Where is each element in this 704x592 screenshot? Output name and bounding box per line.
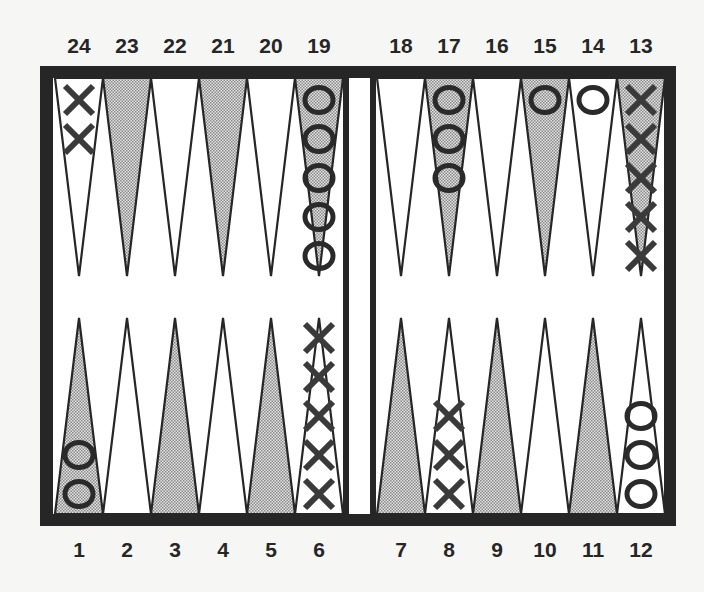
point-label-5: 5 <box>265 538 277 561</box>
point-label-23: 23 <box>115 34 138 57</box>
point-label-21: 21 <box>211 34 235 57</box>
point-label-16: 16 <box>485 34 508 57</box>
point-label-12: 12 <box>629 538 652 561</box>
left-field <box>53 78 343 514</box>
point-label-18: 18 <box>389 34 413 57</box>
bar-edge-right <box>370 78 376 514</box>
point-label-15: 15 <box>533 34 557 57</box>
point-label-8: 8 <box>443 538 455 561</box>
right-field <box>376 78 664 514</box>
point-label-10: 10 <box>533 538 556 561</box>
backgammon-board: 242322212019181716151413123456789101112 <box>0 0 704 592</box>
point-label-22: 22 <box>163 34 186 57</box>
board-canvas: 242322212019181716151413123456789101112 <box>0 0 704 592</box>
point-label-4: 4 <box>217 538 229 561</box>
bar-edge-left <box>343 78 349 514</box>
point-label-2: 2 <box>121 538 133 561</box>
point-label-11: 11 <box>582 538 605 561</box>
point-label-9: 9 <box>491 538 503 561</box>
point-label-17: 17 <box>437 34 460 57</box>
point-label-7: 7 <box>395 538 407 561</box>
point-label-20: 20 <box>259 34 282 57</box>
point-label-3: 3 <box>169 538 181 561</box>
point-label-19: 19 <box>307 34 330 57</box>
point-label-6: 6 <box>313 538 325 561</box>
point-label-1: 1 <box>73 538 85 561</box>
point-label-24: 24 <box>67 34 91 57</box>
point-label-14: 14 <box>581 34 605 57</box>
point-label-13: 13 <box>629 34 652 57</box>
